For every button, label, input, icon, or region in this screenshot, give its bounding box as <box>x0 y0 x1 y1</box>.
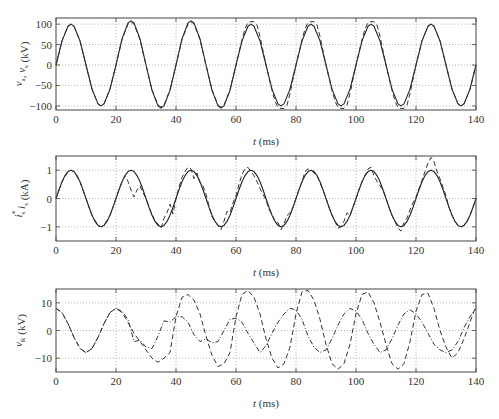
series-line-2 <box>56 157 476 231</box>
x-tick-label: 40 <box>171 244 183 256</box>
x-tick-label: 0 <box>53 244 59 256</box>
subplot-1: 020406080100120140−100−50050100t (ms)va,… <box>12 18 485 148</box>
subplot-2: 020406080100120140−101t (ms)i*s is (kA) <box>11 156 485 279</box>
x-tick-label: 40 <box>171 375 183 387</box>
x-tick-label: 100 <box>348 375 365 387</box>
y-tick-label: 0 <box>47 325 53 337</box>
x-tick-label: 20 <box>111 244 123 256</box>
x-tick-label: 0 <box>53 113 59 125</box>
y-axis-label: vR (kV) <box>12 314 28 347</box>
x-tick-label: 80 <box>291 375 303 387</box>
x-axis-label: t (ms) <box>253 135 279 148</box>
y-tick-label: 100 <box>36 18 53 30</box>
x-axis-label: t (ms) <box>253 266 279 279</box>
y-tick-label: −10 <box>35 352 53 364</box>
series-line-1 <box>56 290 476 369</box>
y-tick-label: 1 <box>47 164 53 176</box>
y-tick-label: −1 <box>40 221 52 233</box>
y-tick-label: −100 <box>29 100 52 112</box>
x-tick-label: 20 <box>111 113 123 125</box>
x-tick-label: 100 <box>348 244 365 256</box>
x-tick-label: 40 <box>171 113 183 125</box>
y-axis-label: va, vs (kV) <box>12 41 31 86</box>
x-tick-label: 120 <box>408 244 425 256</box>
x-tick-label: 60 <box>231 244 243 256</box>
x-tick-label: 140 <box>468 113 485 125</box>
x-tick-label: 140 <box>468 244 485 256</box>
x-tick-label: 60 <box>231 113 243 125</box>
x-tick-label: 140 <box>468 375 485 387</box>
x-tick-label: 0 <box>53 375 59 387</box>
x-tick-label: 20 <box>111 375 123 387</box>
y-tick-label: 50 <box>41 39 53 51</box>
figure: 020406080100120140−100−50050100t (ms)va,… <box>0 0 499 419</box>
y-tick-label: −50 <box>35 79 53 91</box>
x-tick-label: 80 <box>291 113 303 125</box>
x-tick-label: 120 <box>408 375 425 387</box>
x-tick-label: 100 <box>348 113 365 125</box>
y-axis-label: i*s is (kA) <box>11 179 31 217</box>
grid <box>56 289 476 372</box>
y-tick-label: 0 <box>47 193 53 205</box>
x-axis-label: t (ms) <box>253 397 279 410</box>
y-tick-label: 10 <box>41 297 53 309</box>
x-tick-label: 60 <box>231 375 243 387</box>
subplot-3: 020406080100120140−10010t (ms)vR (kV) <box>12 289 485 410</box>
x-tick-label: 80 <box>291 244 303 256</box>
y-tick-label: 0 <box>47 59 53 71</box>
x-tick-label: 120 <box>408 113 425 125</box>
